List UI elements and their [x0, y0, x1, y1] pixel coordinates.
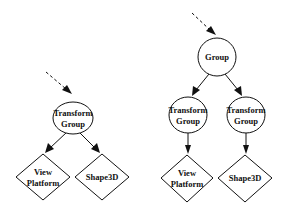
node-label: Group — [205, 52, 229, 62]
node-label: Shape3D — [229, 173, 262, 183]
arrowhead-icon — [45, 143, 54, 153]
arrowhead-icon — [243, 145, 249, 154]
left-scene-graph: Transform Group View Platform Shape3D — [16, 72, 129, 200]
node-label: Transform — [168, 105, 207, 115]
node-label: Transform — [226, 105, 265, 115]
edge-parent-to-group — [192, 13, 216, 35]
edge-group-to-transform-group-2 — [225, 74, 242, 96]
edge-left-transform-group-to-view-platform — [45, 132, 67, 153]
edge-group-to-transform-group-1 — [192, 74, 209, 96]
node-label: Shape3D — [86, 172, 119, 182]
left-view-platform-node: View Platform — [16, 154, 70, 200]
arrowhead-icon — [234, 86, 242, 96]
left-transform-group-node: Transform Group — [53, 102, 93, 134]
arrowhead-icon — [192, 86, 200, 96]
node-label: View — [178, 168, 197, 178]
node-label: Group — [234, 116, 258, 126]
node-label: Platform — [171, 179, 204, 189]
edge-transform-group-2-to-shape3d — [243, 133, 249, 154]
right-view-platform-node: View Platform — [161, 155, 213, 202]
edge-left-transform-group-to-shape3d — [79, 132, 100, 153]
group-node: Group — [198, 38, 236, 76]
node-label: Group — [61, 119, 85, 129]
transform-group-1-node: Transform Group — [168, 97, 207, 133]
edge-parent-to-left-transform-group — [46, 72, 72, 94]
arrowhead-icon — [185, 145, 191, 154]
edge-transform-group-1-to-view-platform — [185, 133, 191, 154]
left-shape3d-node: Shape3D — [75, 154, 129, 200]
node-label: Group — [176, 116, 200, 126]
right-shape3d-node: Shape3D — [218, 155, 272, 202]
transform-group-2-node: Transform Group — [226, 97, 265, 133]
arrowhead-icon — [206, 26, 216, 35]
arrowhead-icon — [91, 143, 100, 153]
right-scene-graph: Group Transform Group Transform Group Vi… — [161, 13, 272, 202]
node-label: View — [34, 167, 53, 177]
scene-graph-diagram: Transform Group View Platform Shape3D — [0, 0, 284, 216]
node-label: Transform — [53, 108, 92, 118]
node-label: Platform — [27, 178, 60, 188]
